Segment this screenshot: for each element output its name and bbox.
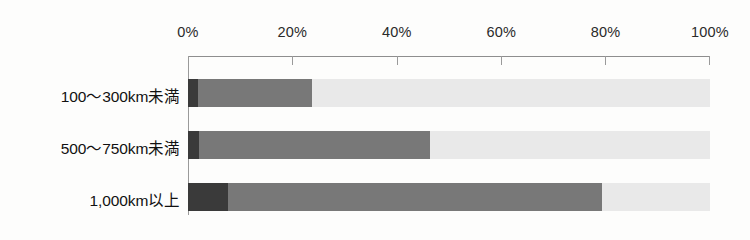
- bar-segment-medium: [198, 79, 312, 107]
- bar-segment-light: [312, 79, 710, 107]
- category-label-2: 1,000km以上: [8, 188, 180, 210]
- bar-segment-dark: [188, 183, 228, 211]
- bar-segment-medium: [199, 131, 430, 159]
- bar-row: [188, 79, 710, 107]
- bars-area: [188, 0, 710, 240]
- bar-segment-light: [602, 183, 710, 211]
- category-label-1: 500〜750km未満: [8, 136, 180, 158]
- bar-track-2: [188, 183, 710, 211]
- bar-segment-medium: [228, 183, 602, 211]
- bar-segment-dark: [188, 131, 199, 159]
- bar-row: [188, 131, 710, 159]
- bar-track-0: [188, 79, 710, 107]
- bar-segment-dark: [188, 79, 198, 107]
- bar-segment-light: [430, 131, 710, 159]
- bar-track-1: [188, 131, 710, 159]
- category-labels: 100〜300km未満 500〜750km未満 1,000km以上: [0, 0, 180, 240]
- category-label-0: 100〜300km未満: [8, 84, 180, 106]
- stacked-bar-chart: 0% 20% 40% 60% 80% 100% 100〜300km未満 500〜…: [0, 0, 750, 240]
- bar-row: [188, 183, 710, 211]
